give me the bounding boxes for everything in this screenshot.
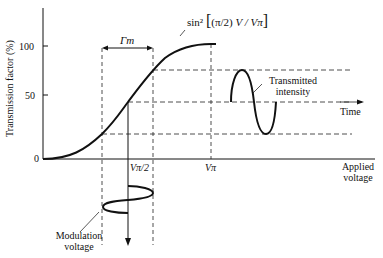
diagram-canvas — [0, 0, 383, 258]
x-tick-label-vpi: Vπ — [205, 162, 216, 173]
formula-v-frac: V / Vπ — [235, 16, 262, 28]
x-axis-label-line1: Applied — [336, 161, 380, 172]
time-arrow-icon — [357, 100, 364, 105]
transmitted-label-line1: Transmitted — [258, 75, 328, 86]
y-tick-label-100: 100 — [19, 41, 34, 52]
x-axis-label: Applied voltage — [336, 161, 380, 183]
curve-formula: sin² [(π/2) V / Vπ] — [187, 15, 268, 28]
modulation-leader — [80, 212, 99, 232]
modulation-label-line2: voltage — [48, 241, 110, 252]
modulation-label-line1: Modulation — [48, 230, 110, 241]
formula-pi-frac: (π/2) — [211, 16, 232, 28]
transmission-curve — [43, 44, 216, 159]
x-axis-label-line2: voltage — [336, 172, 380, 183]
transmitted-label-line2: intensity — [258, 86, 328, 97]
formula-leader — [180, 30, 185, 36]
time-label: Time — [340, 106, 361, 117]
formula-prefix: sin² — [187, 16, 203, 28]
formula-bracket-close: ] — [263, 12, 268, 29]
bias-arrow-icon — [125, 238, 131, 246]
modulation-label: Modulation voltage — [48, 230, 110, 252]
gamma-label: Γm — [120, 35, 134, 46]
x-tick-label-vpi-half: Vπ/2 — [130, 162, 149, 173]
y-tick-label-50: 50 — [25, 90, 35, 101]
y-tick-label-0: 0 — [34, 153, 39, 164]
transmitted-label: Transmitted intensity — [258, 75, 328, 97]
y-axis-label: Transmission factor (%) — [4, 34, 15, 144]
gamma-left-arrow-icon — [102, 46, 108, 51]
gamma-right-arrow-icon — [147, 46, 153, 51]
